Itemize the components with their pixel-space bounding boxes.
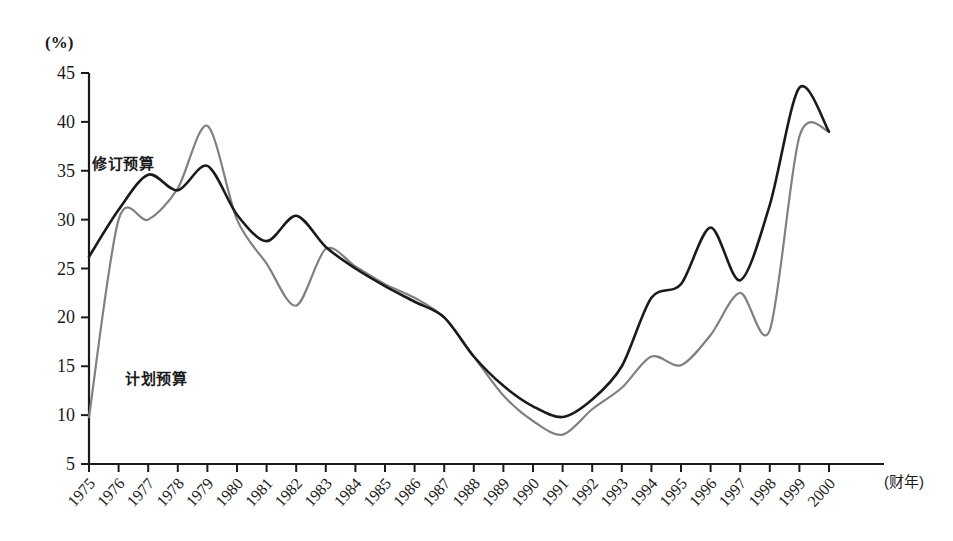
y-axis-unit-label: (%) (45, 33, 73, 53)
series-line-revised-budget (89, 86, 829, 417)
y-axis-tick-label: 40 (57, 112, 75, 132)
x-axis-tick-label: 2000 (804, 475, 838, 510)
x-axis-tick-label: 1993 (597, 475, 631, 510)
y-axis-tick-label: 25 (57, 259, 75, 279)
x-axis-tick-label: 1978 (153, 475, 187, 510)
x-axis-tick-label: 1991 (538, 475, 572, 510)
series-label-planned-budget: 计划预算 (125, 367, 187, 388)
x-axis-tick-label: 1985 (360, 475, 394, 510)
x-axis-tick-label: 1980 (212, 475, 246, 510)
x-axis-tick-label: 1998 (745, 475, 779, 510)
chart-plot-area: 5101520253035404519751976197719781979198… (0, 0, 953, 541)
y-axis-tick-label: 45 (57, 63, 75, 83)
y-axis-tick-label: 30 (57, 210, 75, 230)
x-axis-tick-label: 1976 (94, 475, 128, 510)
budget-line-chart: (%) 510152025303540451975197619771978197… (0, 0, 953, 541)
y-axis-tick-label: 5 (66, 454, 75, 474)
x-axis-tick-label: 1988 (449, 475, 483, 510)
x-axis-tick-label: 1999 (775, 475, 809, 510)
x-axis-tick-label: 1997 (715, 475, 749, 510)
x-axis-tick-label: 1979 (183, 475, 217, 510)
x-axis-tick-label: 1975 (64, 475, 98, 510)
x-axis-tick-label: 1986 (390, 475, 424, 510)
x-axis-tick-label: 1989 (479, 475, 513, 510)
y-axis-tick-label: 20 (57, 307, 75, 327)
x-axis-tick-label: 1982 (271, 475, 305, 510)
y-axis-tick-label: 35 (57, 161, 75, 181)
x-axis-caption: (财年) (884, 470, 924, 491)
x-axis-tick-label: 1992 (567, 475, 601, 510)
x-axis-tick-label: 1994 (627, 475, 661, 510)
x-axis-tick-label: 1996 (686, 475, 720, 510)
x-axis-tick-label: 1990 (508, 475, 542, 510)
x-axis-tick-label: 1981 (242, 475, 276, 510)
y-axis-tick-label: 15 (57, 356, 75, 376)
series-label-revised-budget: 修订预算 (92, 152, 154, 173)
x-axis-tick-label: 1995 (656, 475, 690, 510)
y-axis-tick-label: 10 (57, 405, 75, 425)
x-axis-tick-label: 1983 (301, 475, 335, 510)
x-axis-tick-label: 1984 (331, 475, 365, 510)
x-axis-tick-label: 1977 (123, 475, 157, 510)
x-axis-tick-label: 1987 (419, 475, 453, 510)
